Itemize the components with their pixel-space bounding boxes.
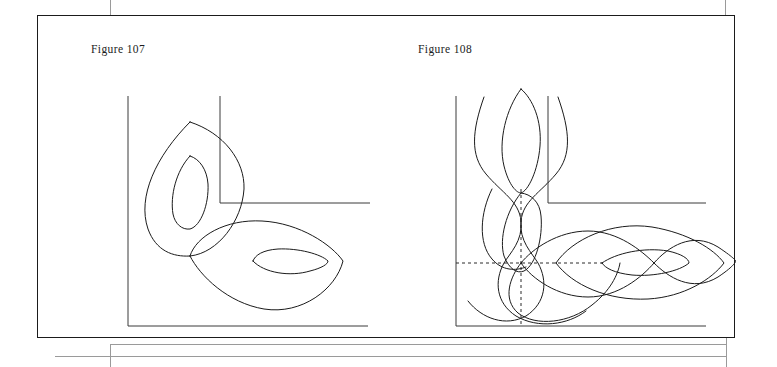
figure-108-horizontal-strand-lower bbox=[521, 240, 736, 297]
figure-107-inner-horizontal-lens bbox=[253, 249, 328, 274]
figure-107-drawing bbox=[78, 71, 398, 336]
figure-108-drawing bbox=[406, 71, 736, 336]
figure-108-outer-corner-frame bbox=[456, 96, 706, 326]
figure-107-inner-corner-frame bbox=[220, 96, 370, 203]
figure-107-caption: Figure 107 bbox=[91, 43, 145, 55]
figure-108-caption: Figure 108 bbox=[418, 43, 472, 55]
figure-107-outer-horizontal-lens bbox=[190, 221, 343, 310]
figure-108-right-outer-lens bbox=[556, 226, 724, 299]
figure-107-inner-vertical-lens bbox=[172, 156, 208, 229]
figure-108-left-horizontal-loop bbox=[509, 263, 620, 321]
figure-107-outer-corner-frame bbox=[128, 96, 368, 326]
figure-108-upper-vertical-lens bbox=[502, 89, 540, 193]
figure-108-vertical-strand-a bbox=[475, 97, 587, 324]
page-edge-rule-bottom bbox=[110, 344, 727, 345]
page-edge-rule-top-right bbox=[725, 0, 726, 16]
page-edge-rule-top-left bbox=[110, 0, 111, 16]
figure-plate: Figure 107 Figure 108 bbox=[37, 15, 735, 338]
figure-108-horizontal-strand-upper bbox=[521, 231, 736, 284]
figure-107-outer-vertical-lens bbox=[145, 122, 244, 256]
figure-108-inner-corner-frame bbox=[548, 96, 706, 203]
scanned-page: Figure 107 Figure 108 bbox=[0, 0, 777, 367]
page-edge-rule-right bbox=[726, 337, 727, 367]
page-edge-rule-bottom-outer bbox=[55, 356, 727, 357]
